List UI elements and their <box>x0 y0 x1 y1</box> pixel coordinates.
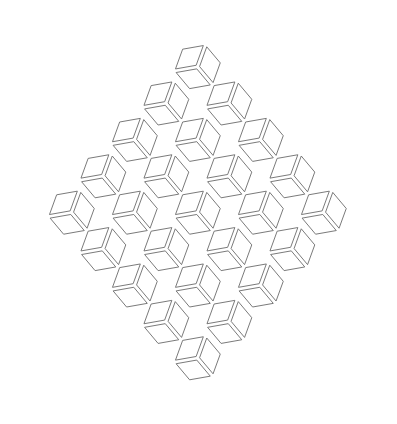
pattern-canvas: Rhombille pinwheel tessellation Line dra… <box>0 0 397 424</box>
tessellation-drawing: Rhombille pinwheel tessellation Line dra… <box>0 0 397 424</box>
background-rect <box>0 0 397 424</box>
